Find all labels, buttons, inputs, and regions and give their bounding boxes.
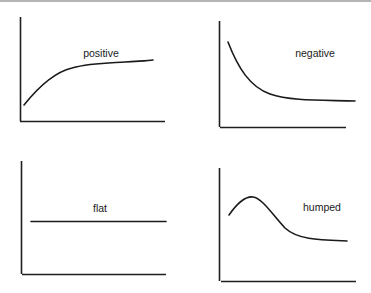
yield-curve-shapes-figure: positive negative flat humped [0,0,371,293]
panel-flat: flat [22,161,167,275]
panel-label-positive: positive [83,47,119,59]
negative-curve [228,42,355,101]
panel-humped: humped [220,168,357,282]
panel-label-negative: negative [295,47,335,59]
panel-negative: negative [220,21,356,128]
panel-label-humped: humped [303,201,341,213]
panel-label-flat: flat [93,202,107,214]
panel-positive: positive [20,17,165,122]
positive-curve [24,60,153,105]
